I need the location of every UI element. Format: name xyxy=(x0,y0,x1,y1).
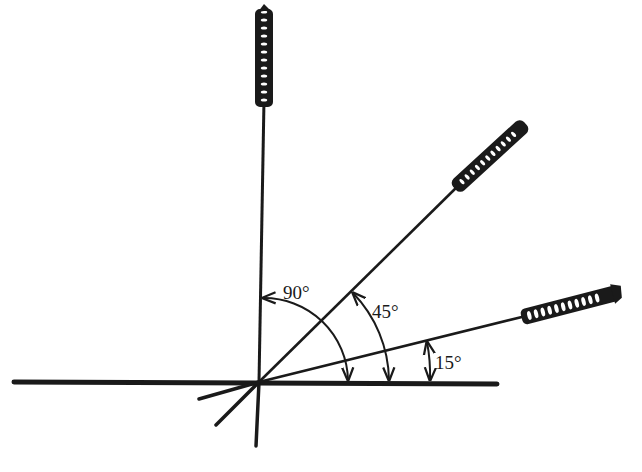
rod-90-coil-icon xyxy=(256,4,272,106)
arc-15 xyxy=(427,342,430,380)
angle-diagram: 90° 45° 15° xyxy=(0,0,642,472)
rod-15-shaft xyxy=(259,316,526,382)
rod-90-tail xyxy=(256,382,259,446)
label-15: 15° xyxy=(435,352,462,373)
rod-90-shaft xyxy=(259,100,264,382)
arc-90 xyxy=(263,298,348,380)
rod-15-coil-icon xyxy=(519,282,625,327)
rod-45-coil-icon xyxy=(449,118,531,195)
label-90: 90° xyxy=(283,282,310,303)
label-45: 45° xyxy=(372,301,399,322)
